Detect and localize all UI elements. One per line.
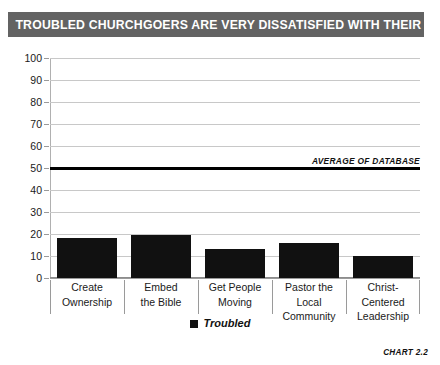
bar-1 <box>131 235 190 278</box>
chart-number: CHART 2.2 <box>383 348 428 357</box>
x-axis-category-label-0: CreateOwnership <box>50 280 124 309</box>
x-axis-category-line: Create <box>50 280 124 295</box>
bar-2 <box>205 249 264 278</box>
y-axis-tick-mark-60 <box>44 146 49 147</box>
y-axis-tick-label-10: 10 <box>12 251 42 262</box>
x-axis-category-line: the Bible <box>124 295 198 310</box>
y-axis-tick-label-40: 40 <box>12 185 42 196</box>
y-axis-tick-label-70: 70 <box>12 119 42 130</box>
x-axis-category-line: Embed <box>124 280 198 295</box>
x-axis-separator-4 <box>346 280 347 314</box>
y-axis-tick-label-30: 30 <box>12 207 42 218</box>
y-axis-tick-mark-30 <box>44 212 49 213</box>
x-axis-separator-edge-0 <box>50 280 51 314</box>
chart-title-banner: TROUBLED CHURCHGOERS ARE VERY DISSATISFI… <box>8 12 424 37</box>
x-axis-category-line: Pastor the Local <box>272 280 346 309</box>
y-axis-tick-mark-100 <box>44 58 49 59</box>
x-axis-category-line: Moving <box>198 295 272 310</box>
x-axis-category-labels: CreateOwnershipEmbedthe BibleGet PeopleM… <box>50 280 420 316</box>
gridline-0 <box>50 278 420 279</box>
y-axis-tick-mark-80 <box>44 102 49 103</box>
x-axis-separator-1 <box>124 280 125 314</box>
bar-0 <box>57 238 116 278</box>
bar-4 <box>353 256 412 278</box>
chart-figure: TROUBLED CHURCHGOERS ARE VERY DISSATISFI… <box>0 0 440 365</box>
y-axis-tick-mark-10 <box>44 256 49 257</box>
y-axis-labels: 0102030405060708090100 <box>8 58 42 278</box>
legend-label-troubled: Troubled <box>204 318 251 329</box>
y-axis-tick-label-50: 50 <box>12 163 42 174</box>
y-axis-tick-label-0: 0 <box>12 273 42 284</box>
y-axis-tick-mark-90 <box>44 80 49 81</box>
average-of-database-line <box>50 167 420 170</box>
y-axis-tick-mark-50 <box>44 168 49 169</box>
x-axis-category-line: Ownership <box>50 295 124 310</box>
x-axis-category-label-4: Christ-CenteredLeadership <box>346 280 420 324</box>
y-axis-tick-label-90: 90 <box>12 75 42 86</box>
y-axis-tick-label-60: 60 <box>12 141 42 152</box>
bar-3 <box>279 243 338 278</box>
average-of-database-label: AVERAGE OF DATABASE <box>312 156 420 166</box>
y-axis-tick-mark-40 <box>44 190 49 191</box>
chart-legend: Troubled <box>0 318 440 329</box>
x-axis-separator-2 <box>198 280 199 314</box>
x-axis-category-label-1: Embedthe Bible <box>124 280 198 309</box>
x-axis-separator-edge-1 <box>419 280 420 314</box>
y-axis-tick-mark-20 <box>44 234 49 235</box>
legend-swatch-troubled <box>190 320 198 328</box>
y-axis-tick-label-20: 20 <box>12 229 42 240</box>
x-axis-category-line: Get People <box>198 280 272 295</box>
y-axis-tick-label-100: 100 <box>12 53 42 64</box>
y-axis-tick-label-80: 80 <box>12 97 42 108</box>
x-axis-category-line: Christ-Centered <box>346 280 420 309</box>
page-title: TROUBLED CHURCHGOERS ARE VERY DISSATISFI… <box>8 18 440 31</box>
y-axis-tick-mark-0 <box>44 278 49 279</box>
x-axis-category-label-3: Pastor the LocalCommunity <box>272 280 346 324</box>
x-axis-separator-3 <box>272 280 273 314</box>
y-axis-tick-mark-70 <box>44 124 49 125</box>
x-axis-category-label-2: Get PeopleMoving <box>198 280 272 309</box>
